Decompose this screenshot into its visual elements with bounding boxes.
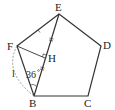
- label-angle: 36: [26, 69, 36, 80]
- label-e: E: [55, 1, 62, 13]
- tick-eh-1: [50, 38, 54, 39]
- tick-hb-1: [41, 67, 45, 68]
- pentagon: [17, 14, 101, 96]
- degree-mark: [38, 70, 40, 72]
- segment-fh: [17, 46, 45, 58]
- label-c: C: [84, 97, 91, 109]
- label-arc: l: [12, 68, 15, 79]
- tick-fe: [38, 30, 40, 33]
- pentagon-diagram: E D C B F H 36 l: [0, 0, 115, 110]
- tick-hb-2: [40, 69, 44, 70]
- label-h: H: [48, 52, 56, 64]
- label-f: F: [7, 40, 13, 52]
- label-b: B: [29, 97, 36, 109]
- label-d: D: [103, 39, 111, 51]
- tick-eh-2: [49, 40, 53, 41]
